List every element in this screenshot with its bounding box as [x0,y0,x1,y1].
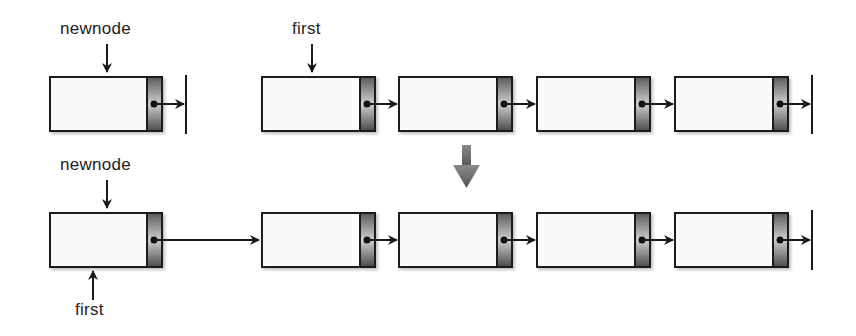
list-node [675,213,788,267]
newnode-label: newnode [60,19,131,39]
list-node [399,213,512,267]
down-arrow-icon [453,145,480,188]
list-node [399,77,512,131]
newnode-node [50,213,162,267]
list-node [262,213,375,267]
newnode-node [50,77,162,131]
newnode-label: newnode [60,155,131,175]
list-node [537,213,650,267]
list-node [537,77,650,131]
list-node [675,77,788,131]
first-label: first [75,300,104,320]
list-node [262,77,375,131]
first-label: first [292,19,321,39]
